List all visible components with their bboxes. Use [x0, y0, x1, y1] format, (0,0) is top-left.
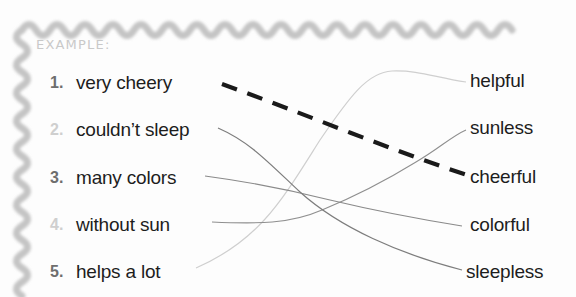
right-word-column: helpful sunless cheerful colorful sleepl… [470, 0, 576, 297]
list-item-5[interactable]: 5. helps a lot [50, 257, 160, 287]
word-option-sleepless[interactable]: sleepless [466, 261, 543, 283]
list-item-2[interactable]: 2. couldn’t sleep [50, 115, 189, 145]
item-text-3: many colors [76, 167, 176, 189]
list-item-4[interactable]: 4. without sun [50, 210, 170, 240]
item-text-2: couldn’t sleep [76, 119, 189, 141]
list-item-1[interactable]: 1. very cheery [50, 68, 172, 98]
item-number-2: 2. [50, 121, 76, 139]
item-text-1: very cheery [76, 72, 172, 94]
item-number-4: 4. [50, 216, 76, 234]
word-option-sunless[interactable]: sunless [470, 117, 533, 139]
word-option-cheerful[interactable]: cheerful [470, 166, 536, 188]
word-option-helpful[interactable]: helpful [470, 70, 525, 92]
word-option-colorful[interactable]: colorful [470, 214, 530, 236]
item-number-5: 5. [50, 263, 76, 281]
item-text-4: without sun [76, 214, 170, 236]
worksheet-page: EXAMPLE: 1. very cheery 2. couldn’t slee… [0, 0, 576, 297]
left-phrase-column: 1. very cheery 2. couldn’t sleep 3. many… [0, 0, 260, 297]
item-text-5: helps a lot [76, 261, 160, 283]
item-number-1: 1. [50, 74, 76, 92]
list-item-3[interactable]: 3. many colors [50, 163, 176, 193]
item-number-3: 3. [50, 169, 76, 187]
